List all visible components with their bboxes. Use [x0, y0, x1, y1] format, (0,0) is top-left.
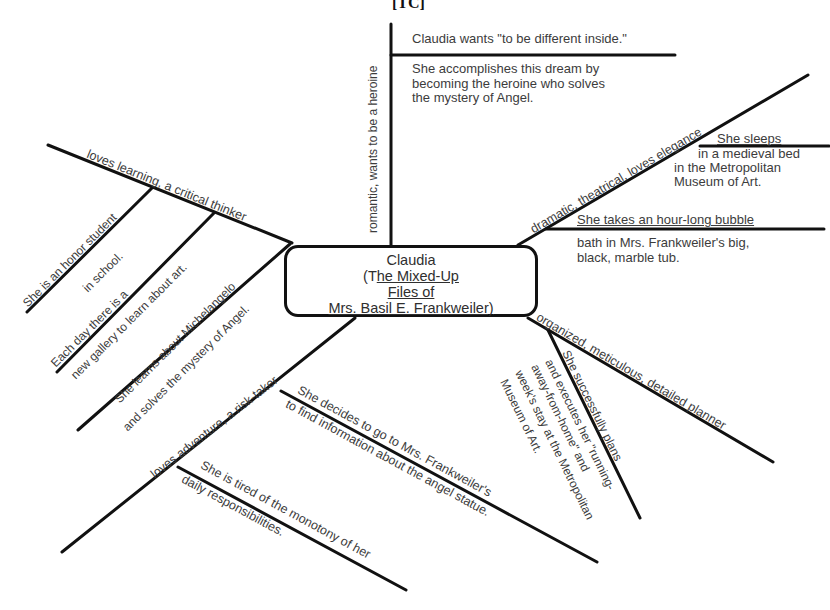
central-node: Claudia (The Mixed-Up Files of Mrs. Basi…: [284, 245, 538, 317]
detail-top-1: Claudia wants "to be different inside.": [412, 32, 627, 47]
detail-line: becoming the heroine who solves: [412, 77, 605, 92]
detail-upper-right-2: bath in Mrs. Frankweiler's big, black, m…: [577, 236, 749, 265]
detail-line: in the Metropolitan: [674, 161, 800, 175]
central-title: Claudia: [287, 252, 535, 268]
central-book-line-1: (The Mixed-Up: [287, 268, 535, 284]
detail-line: the mystery of Angel.: [412, 91, 605, 106]
detail-line: She accomplishes this dream by: [412, 62, 605, 77]
book-title-part-1: he Mixed-Up: [377, 268, 459, 284]
central-book-line-2: Files of: [287, 284, 535, 300]
detail-line: bath in Mrs. Frankweiler's big,: [577, 236, 749, 251]
central-book-line-3: Mrs. Basil E. Frankweiler): [287, 300, 535, 316]
detail-top-2: She accomplishes this dream by becoming …: [412, 62, 605, 106]
detail-upper-right-1-head: She sleeps: [717, 132, 781, 147]
mind-map: [TC] Claudia (The Mixed-Up Files of Mrs.…: [0, 0, 830, 610]
detail-line: in a medieval bed: [694, 147, 800, 161]
detail-line: Museum of Art.: [674, 175, 800, 189]
detail-upper-right-2-head: She takes an hour-long bubble: [577, 213, 754, 228]
paren-open: (T: [363, 268, 377, 284]
trait-label-top: romantic, wants to be a heroine: [366, 66, 381, 233]
detail-line: black, marble tub.: [577, 251, 749, 266]
detail-upper-right-1: in a medieval bed in the Metropolitan Mu…: [694, 147, 800, 189]
